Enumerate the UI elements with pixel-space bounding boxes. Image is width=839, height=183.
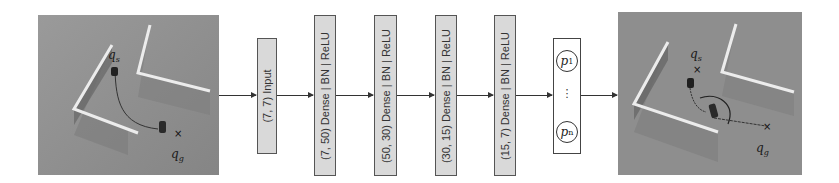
dense-layer-4-label: (15, 7) Dense | BN | ReLU	[499, 32, 511, 160]
output-node-p1-subscript: 1	[568, 57, 573, 66]
dense-layer-2-label: (50, 30) Dense | BN | ReLU	[380, 28, 392, 162]
robot-start-icon	[687, 78, 694, 88]
output-node-pn-subscript: n	[568, 128, 573, 137]
svg-text:×: ×	[763, 121, 771, 132]
dense-layer-3-box: (30, 15) Dense | BN | ReLU	[435, 15, 457, 176]
arrow-dense2-to-dense3	[397, 95, 434, 96]
arrow-output-to-scene	[580, 95, 617, 96]
dense-layer-1-box: (7, 50) Dense | BN | ReLU	[314, 15, 336, 176]
output-ellipsis: ⋮	[554, 91, 580, 96]
output-node-p1-symbol: p	[561, 54, 569, 68]
output-scene-graphic: × × qs qg	[618, 12, 802, 175]
dense-layer-3-label: (30, 15) Dense | BN | ReLU	[440, 28, 452, 162]
output-node-pn: pn	[556, 121, 578, 143]
output-node-pn-symbol: p	[561, 125, 569, 139]
arrow-dense4-to-output	[516, 95, 552, 96]
input-layer-label: (7, 7) Input	[261, 69, 273, 122]
dense-layer-2-box: (50, 30) Dense | BN | ReLU	[374, 15, 397, 176]
arrow-input-to-dense1	[276, 95, 313, 96]
arrow-dense3-to-dense4	[457, 95, 493, 96]
output-scene-image: × × qs qg	[618, 12, 802, 175]
svg-text:×: ×	[693, 64, 701, 75]
output-layer-box: p1 ⋮ pn	[553, 38, 581, 154]
arrow-dense1-to-dense2	[336, 95, 373, 96]
dense-layer-1-label: (7, 50) Dense | BN | ReLU	[319, 32, 331, 160]
dense-layer-4-box: (15, 7) Dense | BN | ReLU	[494, 15, 516, 176]
svg-text:×: ×	[174, 128, 182, 139]
robot-start-icon	[111, 67, 118, 76]
input-scene-image: × qs qg	[38, 15, 219, 175]
input-scene-graphic: × qs qg	[38, 15, 219, 175]
output-node-p1: p1	[556, 50, 578, 72]
arrow-scene-to-input	[219, 95, 256, 96]
input-layer-box: (7, 7) Input	[257, 38, 277, 154]
robot-goal-icon	[159, 121, 166, 133]
